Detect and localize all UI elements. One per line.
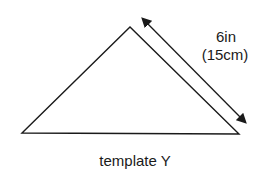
template-y-diagram bbox=[0, 0, 271, 175]
diagram-caption: template Y bbox=[70, 153, 200, 168]
dimension-label-imperial: 6in bbox=[198, 29, 254, 44]
dimension-label-metric: (15cm) bbox=[192, 47, 258, 62]
